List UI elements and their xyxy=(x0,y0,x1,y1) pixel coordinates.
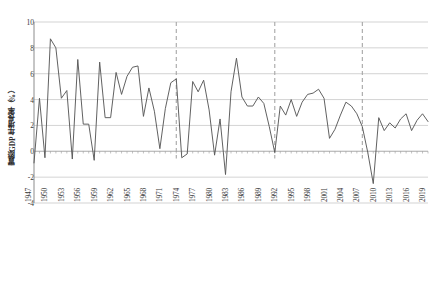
axis-frame xyxy=(34,22,428,203)
x-tick-label: 2004 xyxy=(335,188,344,202)
data-series xyxy=(34,39,428,184)
x-tick-label: 1998 xyxy=(303,188,312,202)
x-tick-label: 2019 xyxy=(418,188,427,202)
x-tick-label: 1968 xyxy=(138,188,147,202)
x-tick-label: 1953 xyxy=(56,188,65,202)
x-tick-label: 1971 xyxy=(155,188,164,202)
x-tick-label: 1956 xyxy=(73,188,82,202)
x-tick-label: 1977 xyxy=(188,188,197,202)
x-tick-label: 1947 xyxy=(24,188,33,202)
gridlines xyxy=(34,22,428,203)
x-tick-label: 1989 xyxy=(253,188,262,202)
x-tick-label: 2001 xyxy=(319,188,328,202)
x-tick-label: 1950 xyxy=(40,188,49,202)
gdp-growth-line-chart: 實際GDP年增長率（%） 1086420-2-4 194719501953195… xyxy=(0,0,434,288)
x-tick-label: 1983 xyxy=(221,188,230,202)
recession-marker-lines xyxy=(176,22,362,158)
x-tick-label: 1992 xyxy=(270,188,279,202)
x-tick-label: 1980 xyxy=(204,188,213,202)
x-tick-label: 1986 xyxy=(237,188,246,202)
x-tick-label: 2016 xyxy=(401,188,410,202)
x-axis-tick-labels: 1947195019531956195919621965196819711974… xyxy=(0,202,434,262)
x-tick-label: 2010 xyxy=(368,188,377,202)
x-tick-label: 2013 xyxy=(385,188,394,202)
x-tick-label: 1995 xyxy=(286,188,295,202)
x-tick-label: 1965 xyxy=(122,188,131,202)
x-tick-label: 1959 xyxy=(89,188,98,202)
x-tick-label: 1962 xyxy=(106,188,115,202)
x-tick-label: 1974 xyxy=(171,188,180,202)
x-tick-label: 2007 xyxy=(352,188,361,202)
gdp-growth-line xyxy=(34,39,428,184)
